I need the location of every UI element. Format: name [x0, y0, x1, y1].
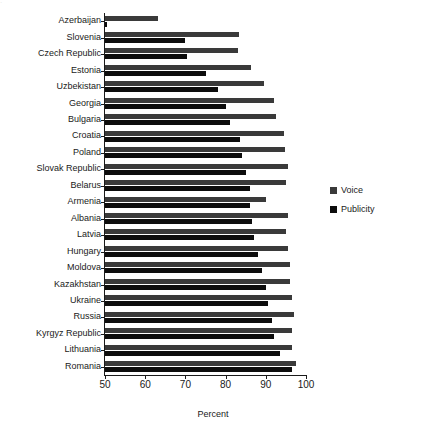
bar-group [105, 326, 306, 342]
bar-voice [105, 131, 284, 136]
y-axis-label: Azerbaijan [1, 16, 101, 25]
bar-publicity [105, 301, 268, 306]
bar-voice [105, 312, 294, 317]
bar-voice [105, 279, 290, 284]
bar-group [105, 276, 306, 292]
x-axis-tick-label: 100 [286, 379, 326, 390]
x-axis-title: Percent [0, 409, 426, 419]
bar-voice [105, 48, 238, 53]
bar-publicity [105, 137, 240, 142]
legend-item-publicity: Publicity [330, 204, 375, 214]
y-axis-label: Slovenia [1, 33, 101, 42]
y-axis-label: Hungary [1, 247, 101, 256]
bar-publicity [105, 219, 252, 224]
y-axis-label: Slovak Republic [1, 164, 101, 173]
bar-publicity [105, 120, 230, 125]
bar-voice [105, 65, 251, 70]
bar-group [105, 293, 306, 309]
bar-group [105, 29, 306, 45]
bar-publicity [105, 351, 280, 356]
bar-publicity [105, 268, 262, 273]
bar-publicity [105, 38, 185, 43]
bar-group [105, 46, 306, 62]
bar-voice [105, 81, 264, 86]
bar-publicity [105, 22, 107, 27]
bar-publicity [105, 87, 218, 92]
bar-publicity [105, 252, 258, 257]
y-axis-label: Ukraine [1, 296, 101, 305]
bar-voice [105, 262, 290, 267]
bar-publicity [105, 285, 266, 290]
bar-group [105, 260, 306, 276]
x-axis-tick-label: 70 [165, 379, 205, 390]
bar-group [105, 210, 306, 226]
bar-voice [105, 164, 288, 169]
bar-group [105, 243, 306, 259]
top-cutoff-text: . [0, 0, 3, 5]
x-axis-tick-labels: 5060708090100 [0, 379, 426, 393]
bar-group [105, 62, 306, 78]
bar-voice [105, 32, 239, 37]
legend-label-publicity: Publicity [341, 204, 375, 214]
y-axis-label: Lithuania [1, 345, 101, 354]
bar-publicity [105, 334, 274, 339]
bar-voice [105, 180, 286, 185]
y-axis-label: Kyrgyz Republic [1, 329, 101, 338]
bar-publicity [105, 318, 272, 323]
bar-publicity [105, 203, 250, 208]
legend-swatch-publicity-icon [330, 206, 337, 213]
x-axis-tick-label: 80 [206, 379, 246, 390]
bar-group [105, 128, 306, 144]
bar-group [105, 342, 306, 358]
y-axis-label: Croatia [1, 131, 101, 140]
bar-voice [105, 213, 288, 218]
bar-publicity [105, 235, 254, 240]
bar-voice [105, 295, 292, 300]
bar-publicity [105, 54, 187, 59]
bar-publicity [105, 170, 246, 175]
y-axis-label: Georgia [1, 99, 101, 108]
bar-group [105, 227, 306, 243]
bar-publicity [105, 186, 250, 191]
bar-voice [105, 98, 274, 103]
y-axis-label: Latvia [1, 230, 101, 239]
x-axis-tick-label: 50 [85, 379, 125, 390]
y-axis-label: Romania [1, 362, 101, 371]
x-axis-tick-label: 90 [246, 379, 286, 390]
y-axis-label: Belarus [1, 181, 101, 190]
bar-group [105, 161, 306, 177]
bar-group [105, 145, 306, 161]
x-axis-tick-label: 60 [125, 379, 165, 390]
y-axis-labels: AzerbaijanSloveniaCzech RepublicEstoniaU… [0, 13, 101, 375]
bar-publicity [105, 153, 242, 158]
y-axis-label: Russia [1, 312, 101, 321]
y-axis-label: Bulgaria [1, 115, 101, 124]
bar-voice [105, 229, 286, 234]
bar-voice [105, 147, 285, 152]
y-axis-label: Armenia [1, 197, 101, 206]
bar-publicity [105, 104, 226, 109]
bar-publicity [105, 71, 206, 76]
bar-group [105, 178, 306, 194]
y-axis-label: Estonia [1, 66, 101, 75]
bar-group [105, 359, 306, 375]
bar-voice [105, 197, 266, 202]
y-axis-label: Albania [1, 214, 101, 223]
legend-item-voice: Voice [330, 185, 375, 195]
y-axis-label: Poland [1, 148, 101, 157]
bar-group [105, 112, 306, 128]
legend: Voice Publicity [330, 185, 375, 223]
bar-group [105, 309, 306, 325]
bar-voice [105, 361, 296, 366]
plot-area [105, 13, 306, 375]
y-axis-label: Kazakhstan [1, 280, 101, 289]
bar-voice [105, 345, 292, 350]
bar-publicity [105, 367, 292, 372]
y-axis-label: Uzbekistan [1, 82, 101, 91]
bar-chart: . AzerbaijanSloveniaCzech RepublicEstoni… [0, 0, 426, 433]
legend-swatch-voice-icon [330, 187, 337, 194]
top-cutoff-artifact: . [0, 0, 426, 9]
bar-group [105, 95, 306, 111]
bar-voice [105, 328, 292, 333]
bar-group [105, 79, 306, 95]
